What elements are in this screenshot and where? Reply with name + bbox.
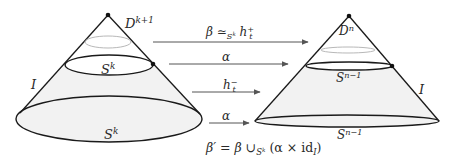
right-middle-sphere: [306, 62, 392, 70]
left-faint-ring: [85, 36, 131, 48]
left-base-sphere-label: Sk: [104, 127, 118, 141]
left-middle-dot: [151, 62, 156, 67]
right-base-sphere-label: Sn−1: [337, 128, 363, 141]
formula: β′ = β ∪Sk (α × idI): [206, 142, 321, 156]
left-interval-label: I: [31, 78, 36, 91]
right-interval-label: I: [419, 83, 424, 96]
right-middle-sphere-label: Sn−1: [336, 71, 362, 84]
left-apex-label: Dk+1: [125, 16, 154, 30]
arrow-beta-label: β ≃Sk h+t: [206, 25, 252, 40]
right-middle-dot: [390, 64, 395, 69]
right-faint-ring: [321, 47, 375, 53]
left-cone: [16, 13, 202, 142]
left-middle-sphere-label: Sk: [101, 62, 115, 76]
arrow-alpha-top-label: α: [222, 51, 230, 63]
arrow-alpha-bottom-label: α: [222, 110, 230, 122]
right-apex-label: Dn: [339, 24, 354, 37]
left-apex-dot: [106, 13, 111, 18]
arrow-h-minus-label: h−t: [223, 78, 236, 93]
right-apex-dot: [347, 14, 352, 19]
